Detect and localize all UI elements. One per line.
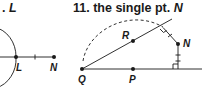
label-p: P [129,74,136,85]
perpendicular-to-ray-qr [163,28,178,45]
ray-q-r [82,19,172,69]
point-n-right [176,42,180,46]
left-title: . L [2,1,17,15]
left-title-var: L [9,1,17,15]
label-n-left: N [50,62,57,73]
label-l: L [16,62,22,73]
right-title: 11. the single pt. N [73,1,183,15]
left-title-prefix: . [2,1,5,15]
point-l [14,55,18,59]
right-angle-mark-lower [173,64,178,69]
problem-text: the single pt. [93,1,170,15]
circle-arc [0,27,16,88]
problem-number: 11. [73,1,90,15]
problem-var: N [174,1,183,15]
label-r: R [122,30,129,41]
point-r [131,39,135,43]
point-p [131,67,135,71]
right-angle-mark-upper [160,29,167,33]
label-n-right: N [183,38,190,49]
point-n-left [52,55,56,59]
left-construction [0,27,54,88]
point-q [80,67,84,71]
label-q: Q [78,74,86,85]
